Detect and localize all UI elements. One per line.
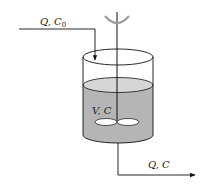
tank-top-rim — [83, 49, 153, 65]
impeller-blade-right — [117, 119, 139, 126]
tank: V, C — [83, 49, 153, 143]
tank-label: V, C — [92, 105, 112, 116]
liquid-surface — [83, 78, 153, 93]
inlet-label: Q, C0 — [40, 16, 66, 29]
cstr-diagram: Q, C0 V, C Q, C — [0, 0, 212, 190]
outlet-stream: Q, C — [118, 143, 195, 175]
outlet-label: Q, C — [148, 159, 170, 170]
inlet-stream: Q, C0 — [19, 16, 95, 60]
impeller-blade-left — [95, 119, 117, 126]
